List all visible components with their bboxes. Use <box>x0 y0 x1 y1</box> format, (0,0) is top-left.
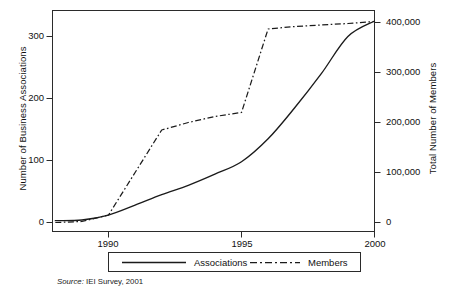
source-note: Source: IEI Survey, 2001 <box>57 277 143 286</box>
legend: Associations Members <box>108 252 361 272</box>
source-text: IEI Survey, 2001 <box>86 277 143 286</box>
legend-item-associations: Associations <box>121 253 247 271</box>
chart-figure: Number of Business Associations Total Nu… <box>0 0 449 295</box>
legend-swatch-solid-line-icon <box>121 257 187 267</box>
source-prefix: Source: <box>57 277 84 286</box>
legend-item-members: Members <box>249 253 348 271</box>
plot-frame <box>53 11 375 232</box>
y-axis-right-ticks <box>375 23 381 223</box>
legend-label-members: Members <box>308 257 348 268</box>
x-axis-ticks <box>109 232 375 238</box>
series-line-members <box>55 22 374 223</box>
y-axis-left-ticks <box>47 37 53 223</box>
legend-label-associations: Associations <box>194 257 247 268</box>
legend-swatch-dash-dot-line-icon <box>249 257 301 267</box>
series-line-associations <box>55 21 374 221</box>
plot-area <box>0 0 449 295</box>
